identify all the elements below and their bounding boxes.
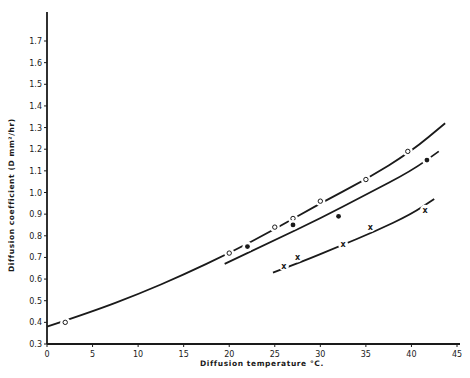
x-tick-label: 10 [133,350,143,359]
cross-point: x [423,206,429,215]
filled-circle-point [336,214,341,219]
open-circle-point [63,320,67,324]
x-tick-label: 30 [315,350,325,359]
y-tick-label: 1.4 [29,102,42,111]
x-tick-label: 5 [90,350,95,359]
fit-curve-open-circles [47,123,445,326]
x-tick-label: 20 [224,350,234,359]
x-tick-label: 45 [452,350,462,359]
open-circle-point [273,225,277,229]
x-tick-label: 25 [270,350,280,359]
cross-point: x [368,223,374,232]
cross-point: x [341,240,347,249]
x-tick-label: 15 [179,350,189,359]
fit-curve-filled-circles [225,151,439,264]
open-circle-point [364,177,368,181]
open-circle-point [406,149,410,153]
y-tick-label: 0.3 [29,340,42,349]
x-tick-label: 35 [361,350,371,359]
filled-circle-point [245,244,250,249]
y-tick-label: 0.9 [29,210,42,219]
y-tick-label: 1.3 [29,124,42,133]
open-circle-point [318,199,322,203]
y-tick-label: 1.1 [29,167,42,176]
filled-circle-point [425,158,430,163]
x-tick-label: 40 [406,350,416,359]
filled-circle-point [291,223,296,228]
y-tick-label: 1.2 [29,145,42,154]
y-tick-label: 0.7 [29,253,42,262]
cross-point: x [281,262,287,271]
fit-curves [47,123,445,326]
y-tick-label: 0.6 [29,275,42,284]
cross-point: x [295,253,301,262]
y-tick-label: 1.0 [29,189,42,198]
y-tick-label: 1.5 [29,80,42,89]
y-tick-label: 0.5 [29,297,42,306]
x-axis-label: Diffusion temperature °C. [200,359,324,368]
open-circle-point [227,251,231,255]
x-tick-label: 0 [44,350,49,359]
y-tick-label: 1.7 [29,37,42,46]
y-axis-label: Diffusion coefficient (D mm²/hr) [7,118,16,272]
y-tick-label: 1.6 [29,59,42,68]
diffusion-chart: 0.30.40.50.60.70.80.91.01.11.21.31.41.51… [0,0,470,378]
y-tick-label: 0.8 [29,232,42,241]
y-tick-label: 0.4 [29,318,42,327]
